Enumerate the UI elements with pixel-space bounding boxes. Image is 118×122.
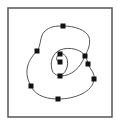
control-point[interactable]	[58, 74, 63, 79]
control-points	[29, 24, 97, 102]
control-point[interactable]	[35, 49, 40, 54]
control-point[interactable]	[83, 54, 88, 59]
control-point[interactable]	[29, 84, 34, 89]
control-point[interactable]	[58, 52, 63, 57]
diagram-canvas	[0, 0, 118, 122]
control-point[interactable]	[86, 62, 91, 67]
control-point[interactable]	[92, 77, 97, 82]
control-point[interactable]	[61, 24, 66, 29]
control-point[interactable]	[56, 97, 61, 102]
control-point[interactable]	[58, 60, 63, 65]
